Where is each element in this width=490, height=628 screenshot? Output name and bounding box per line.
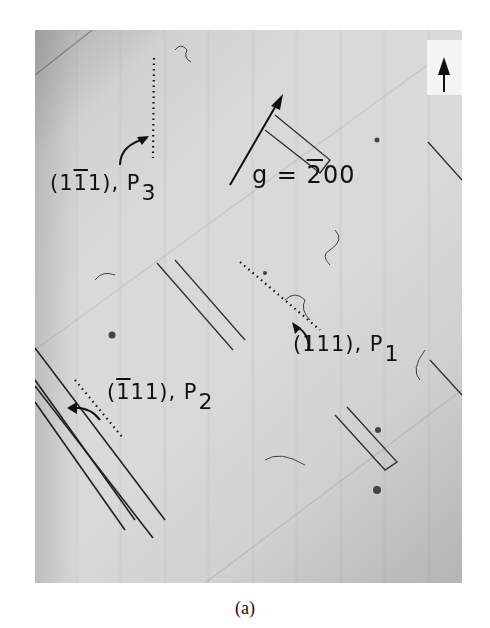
label-p3: (111), P3 — [50, 173, 157, 204]
p1-dotted-trace — [240, 262, 320, 330]
up-arrow-icon — [427, 40, 462, 95]
figure-caption: (a) — [0, 598, 490, 619]
label-g-vector: g = 200 — [252, 163, 355, 187]
label-p2: (111), P2 — [107, 382, 214, 413]
label-p1: (111), P1 — [293, 334, 399, 365]
micrograph-features — [35, 30, 462, 583]
tem-micrograph — [35, 30, 462, 583]
p3-dotted-trace — [153, 58, 154, 158]
